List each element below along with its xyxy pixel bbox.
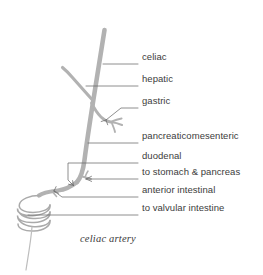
label-to-valvular-intestine: to valvular intestine [142,202,224,213]
label-gastric: gastric [142,95,170,106]
label-celiac: celiac [142,51,167,62]
hepatic-branch-vessel [63,68,93,101]
label-hepatic: hepatic [142,73,173,84]
celiac-artery-figure: celiac hepatic gastric pancreaticomesent… [0,0,263,275]
distal-trunk-vessel [39,182,77,196]
stomach-pancreas-branch-upper-twig-vessel [85,171,88,177]
celiac-trunk-vessel [77,30,105,182]
label-duodenal: duodenal [142,150,182,161]
gastric-branch-fork-lower-vessel [112,124,115,133]
spiral-tail-vessel [26,227,32,270]
spiral-turn-1 [19,196,50,213]
leader-line-anterior-intestinal [54,191,138,197]
label-anterior-intestinal: anterior intestinal [142,184,215,195]
label-to-stomach-and-pancreas: to stomach & pancreas [142,166,240,177]
arrowhead-group [54,120,108,193]
label-pancreaticomesenteric: pancreaticomesenteric [142,130,239,141]
figure-caption: celiac artery [80,233,136,244]
valvular-intestine-spiral [17,196,50,271]
